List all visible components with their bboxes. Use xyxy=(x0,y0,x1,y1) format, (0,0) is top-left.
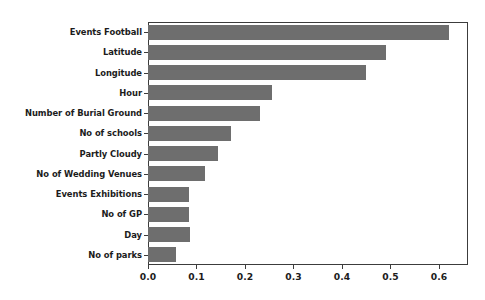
x-axis-tick-label: 0.0 xyxy=(128,271,168,282)
y-axis-tick-label: Events Football xyxy=(0,27,142,37)
bar-fill xyxy=(148,45,386,60)
bar xyxy=(148,65,366,80)
bar xyxy=(148,146,218,161)
x-axis-tick-mark xyxy=(342,265,343,269)
bar-fill xyxy=(148,247,176,262)
x-axis-tick-mark xyxy=(439,265,440,269)
x-axis-tick-label: 0.1 xyxy=(176,271,216,282)
bar xyxy=(148,45,386,60)
y-axis-tick-label: Hour xyxy=(0,88,142,98)
bar-fill xyxy=(148,65,366,80)
bar xyxy=(148,227,190,242)
x-axis-tick-label: 0.5 xyxy=(370,271,410,282)
bar-chart-figure: Events FootballLatitudeLongitudeHourNumb… xyxy=(0,0,485,300)
bar-fill xyxy=(148,106,260,121)
x-axis-tick-mark xyxy=(293,265,294,269)
x-axis-tick-mark xyxy=(390,265,391,269)
bar xyxy=(148,106,260,121)
x-axis-tick-mark xyxy=(148,265,149,269)
bar-fill xyxy=(148,166,205,181)
x-axis-tick-label: 0.4 xyxy=(322,271,362,282)
bar xyxy=(148,126,231,141)
y-axis-tick-label: No of schools xyxy=(0,128,142,138)
bar xyxy=(148,25,449,40)
y-axis-tick-label: Longitude xyxy=(0,68,142,78)
y-axis-tick-label: Day xyxy=(0,230,142,240)
x-axis-tick-mark xyxy=(245,265,246,269)
y-axis-tick-label: No of GP xyxy=(0,209,142,219)
bar xyxy=(148,247,176,262)
x-axis-tick-mark xyxy=(196,265,197,269)
bar-fill xyxy=(148,126,231,141)
x-axis-tick-label: 0.2 xyxy=(225,271,265,282)
y-axis-tick-label: No of parks xyxy=(0,250,142,260)
y-axis-tick-label: No of Wedding Venues xyxy=(0,169,142,179)
bar xyxy=(148,166,205,181)
bar-fill xyxy=(148,25,449,40)
y-axis-tick-label: Partly Cloudy xyxy=(0,149,142,159)
x-axis-tick-label: 0.6 xyxy=(419,271,459,282)
bar-fill xyxy=(148,187,189,202)
bar xyxy=(148,85,272,100)
bar xyxy=(148,187,189,202)
y-axis-tick-label: Number of Burial Ground xyxy=(0,108,142,118)
y-axis-tick-label: Events Exhibitions xyxy=(0,189,142,199)
y-axis-tick-label: Latitude xyxy=(0,47,142,57)
bar-fill xyxy=(148,207,189,222)
bar xyxy=(148,207,189,222)
bar-fill xyxy=(148,85,272,100)
x-axis-tick-label: 0.3 xyxy=(273,271,313,282)
bar-fill xyxy=(148,227,190,242)
bar-fill xyxy=(148,146,218,161)
